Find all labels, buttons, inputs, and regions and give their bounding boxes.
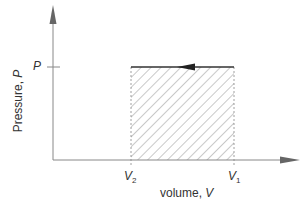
v1-label: V1 bbox=[228, 169, 240, 185]
pv-diagram bbox=[0, 0, 307, 209]
x-axis-label: volume, V bbox=[160, 186, 213, 200]
v2-label: V2 bbox=[124, 169, 136, 185]
y-axis-label: Pressure, P bbox=[11, 61, 25, 141]
shaded-work-area bbox=[131, 67, 234, 167]
y-axis bbox=[50, 5, 57, 160]
p-tick-label: P bbox=[33, 59, 41, 73]
